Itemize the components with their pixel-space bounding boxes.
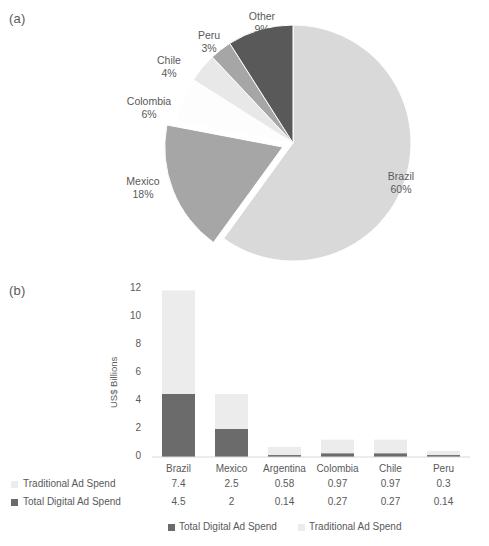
pie-label-peru-value: 3% bbox=[181, 42, 237, 55]
pie-label-brazil-value: 60% bbox=[366, 183, 436, 196]
bar-traditional-mexico bbox=[215, 394, 248, 429]
pie-label-chile: Chile 4% bbox=[139, 54, 199, 79]
pie-label-chile-value: 4% bbox=[139, 67, 199, 80]
table-row-label-digital: Total Digital Ad Spend bbox=[23, 496, 121, 507]
x-axis-label-peru: Peru bbox=[404, 463, 484, 474]
bar-traditional-argentina bbox=[268, 447, 301, 455]
table-cell-traditional-peru: 0.3 bbox=[404, 478, 484, 489]
pie-label-other: Other 9% bbox=[232, 10, 292, 35]
table-cell-digital-peru: 0.14 bbox=[404, 496, 484, 507]
pie-chart-panel: (a) Brazil 60% Mexico 18% Colombia 6% Ch… bbox=[0, 0, 489, 275]
pie-label-mexico-name: Mexico bbox=[108, 175, 178, 188]
table-swatch-traditional bbox=[11, 481, 18, 488]
bar-digital-mexico bbox=[215, 429, 248, 457]
bar-digital-chile bbox=[374, 453, 407, 457]
bar-traditional-colombia bbox=[321, 440, 354, 454]
pie-label-colombia: Colombia 6% bbox=[114, 95, 184, 120]
bar-digital-colombia bbox=[321, 453, 354, 457]
legend-swatch-digital bbox=[168, 524, 175, 531]
pie-chart-svg bbox=[0, 0, 489, 275]
table-row-label-traditional: Traditional Ad Spend bbox=[23, 478, 115, 489]
legend-label-digital: Total Digital Ad Spend bbox=[179, 521, 277, 532]
pie-label-mexico: Mexico 18% bbox=[108, 175, 178, 200]
pie-label-brazil-name: Brazil bbox=[366, 170, 436, 183]
pie-label-brazil: Brazil 60% bbox=[366, 170, 436, 195]
pie-label-colombia-name: Colombia bbox=[114, 95, 184, 108]
pie-label-chile-name: Chile bbox=[139, 54, 199, 67]
pie-slice-group bbox=[165, 25, 411, 261]
bar-traditional-chile bbox=[374, 440, 407, 454]
figure-container: (a) Brazil 60% Mexico 18% Colombia 6% Ch… bbox=[0, 0, 489, 546]
pie-label-other-name: Other bbox=[232, 10, 292, 23]
legend-label-traditional: Traditional Ad Spend bbox=[309, 521, 401, 532]
table-swatch-digital bbox=[11, 499, 18, 506]
bar-chart-panel: (b) US$ Billions 024681012 BrazilMexicoA… bbox=[0, 275, 489, 546]
pie-label-colombia-value: 6% bbox=[114, 108, 184, 121]
bar-traditional-brazil bbox=[162, 290, 195, 394]
bar-traditional-peru bbox=[427, 451, 460, 455]
pie-label-other-value: 9% bbox=[232, 23, 292, 36]
pie-label-peru-name: Peru bbox=[181, 29, 237, 42]
pie-label-mexico-value: 18% bbox=[108, 188, 178, 201]
bar-digital-brazil bbox=[162, 394, 195, 457]
bar-group bbox=[162, 290, 460, 457]
legend-swatch-traditional bbox=[298, 524, 305, 531]
pie-label-peru: Peru 3% bbox=[181, 29, 237, 54]
